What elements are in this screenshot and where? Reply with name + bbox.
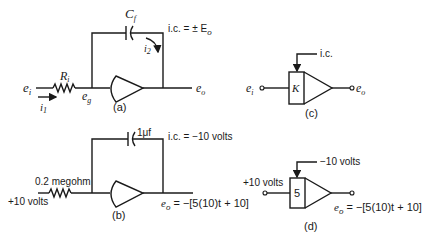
panel-a: ei i1 Ri eg Cf i2 i.c. = ± Eo eo (a) — [23, 6, 212, 115]
amplifier-icon — [305, 178, 331, 208]
panel-b: 0.2 megohm +10 volts 1μf i.c. = −10 volt… — [8, 127, 249, 221]
feedback-wire-right — [130, 33, 163, 88]
output-terminal-icon — [350, 191, 354, 195]
capacitor-label: Cf — [125, 6, 138, 23]
caption-c: (c) — [305, 107, 318, 119]
panel-c: ei K i.c. eo (c) — [246, 48, 365, 119]
resistor-icon — [53, 84, 75, 92]
feedback-current-label: i2 — [144, 43, 151, 56]
panel-d: +10 volts 5 −10 volts eo = −[5(10)t + 10… — [243, 156, 422, 232]
integrator-diagrams: ei i1 Ri eg Cf i2 i.c. = ± Eo eo (a) 0.2… — [0, 0, 434, 239]
input-label: +10 volts — [243, 177, 283, 188]
input-label: +10 volts — [8, 196, 48, 207]
resistor-icon — [49, 189, 71, 197]
output-label: eo — [356, 81, 365, 97]
feedback-wire-right — [132, 139, 163, 193]
output-terminal-icon — [350, 86, 354, 90]
ic-input-arrow-icon — [297, 162, 317, 177]
resistor-label: 0.2 megohm — [35, 176, 91, 187]
input-label: ei — [23, 80, 32, 97]
gain-label: K — [291, 82, 300, 94]
caption-a: (a) — [113, 101, 126, 113]
feedback-wire-left — [92, 33, 126, 88]
output-equation: eo = −[5(10)t + 10] — [161, 197, 249, 212]
output-equation: eo = −[5(10)t + 10] — [334, 201, 422, 216]
input-terminal-icon — [260, 86, 264, 90]
initial-condition-label: i.c. = ± Eo — [168, 23, 212, 37]
initial-condition-label: −10 volts — [320, 156, 360, 167]
amplifier-icon — [111, 181, 143, 207]
resistor-label: Ri — [59, 69, 70, 84]
feedback-wire-left — [92, 139, 128, 193]
initial-condition-label: i.c. — [320, 48, 333, 59]
input-terminal-icon — [263, 191, 267, 195]
current-in-label: i1 — [40, 101, 47, 115]
amplifier-icon — [111, 76, 143, 102]
initial-condition-label: i.c. = −10 volts — [168, 131, 232, 142]
ic-input-arrow-icon — [297, 54, 317, 71]
caption-b: (b) — [112, 209, 125, 221]
input-label: ei — [246, 81, 254, 97]
capacitor-label: 1μf — [137, 127, 151, 138]
amplifier-icon — [304, 72, 332, 104]
output-label: eo — [196, 81, 205, 97]
node-label: eg — [82, 89, 91, 105]
caption-d: (d) — [304, 220, 317, 232]
gain-label: 5 — [294, 187, 300, 199]
